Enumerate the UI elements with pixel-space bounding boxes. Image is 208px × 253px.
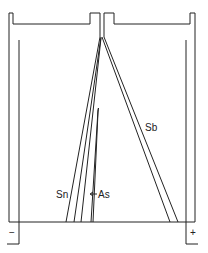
electrolytic-cell-diagram: Sn As Sb − +	[0, 0, 208, 253]
cathode-sign: −	[9, 227, 15, 238]
as-band-right	[91, 108, 99, 222]
anode-electrode	[186, 40, 198, 244]
as-label: As	[98, 189, 110, 200]
sb-band-right	[104, 37, 178, 222]
sn-label: Sn	[56, 189, 68, 200]
sb-band-left	[102, 37, 170, 222]
anode-sign: +	[190, 227, 196, 238]
sb-label: Sb	[145, 122, 158, 133]
